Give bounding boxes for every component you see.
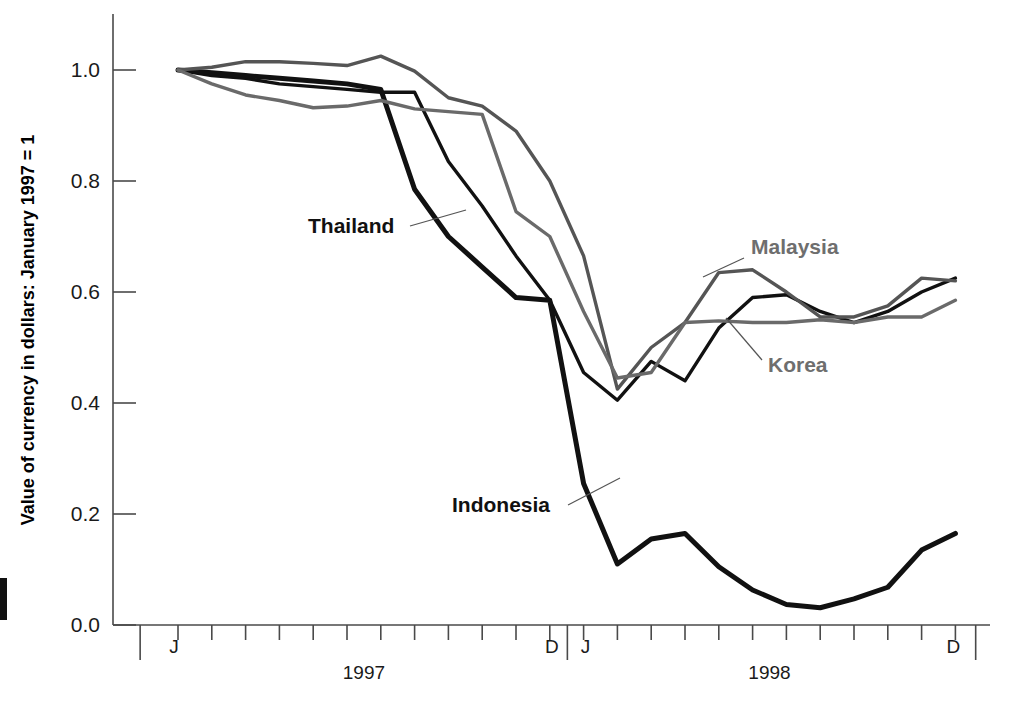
leader-line-korea [726,318,762,360]
x-axis-labels-layer: JDJD19971998 [169,636,960,683]
y-axis-ticks: 0.00.20.40.60.81.0 [71,58,136,636]
series-label-korea: Korea [768,353,828,376]
x-year-label-1997: 1997 [343,662,385,683]
series-label-malaysia: Malaysia [751,235,839,258]
y-tick-label: 0.0 [71,613,100,636]
leader-line-indonesia [568,478,620,505]
y-tick-label: 0.6 [71,280,100,303]
series-label-indonesia: Indonesia [452,493,550,516]
series-line-thailand [178,70,955,400]
x-label-dec-1998: D [947,636,961,657]
y-axis-title: Value of currency in dollars: January 19… [18,135,38,526]
x-label-dec-1997: D [545,636,559,657]
scan-edge-artifact [0,578,7,620]
leader-line-malaysia [703,258,744,277]
x-label-jan-1997: J [169,636,179,657]
y-tick-label: 0.4 [71,391,101,414]
line-chart-canvas: Value of currency in dollars: January 19… [0,0,1017,708]
data-series-layer [178,56,955,608]
chart-figure: Value of currency in dollars: January 19… [0,0,1017,708]
y-tick-label: 0.8 [71,169,100,192]
series-line-korea [178,70,955,378]
x-label-jan-1998: J [581,636,591,657]
series-annotations-layer: ThailandIndonesiaMalaysiaKorea [308,210,839,516]
y-tick-label: 1.0 [71,58,100,81]
x-year-label-1998: 1998 [748,662,790,683]
series-label-thailand: Thailand [308,214,394,237]
y-tick-label: 0.2 [71,502,100,525]
